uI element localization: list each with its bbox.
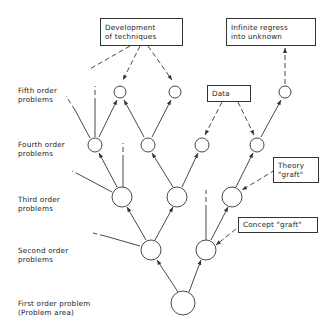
- box-infinite-regress: Infinite regress into unknown: [226, 18, 316, 46]
- box-concept-graft: Concept "graft": [238, 217, 318, 233]
- problem-nodes: [88, 86, 291, 315]
- level-label-first: First order problem (Problem area): [18, 299, 90, 317]
- level-label-second: Second order problems: [18, 246, 68, 264]
- box-data: Data: [207, 85, 251, 102]
- level-label-fourth: Fourth order problems: [18, 140, 65, 158]
- level-label-third: Third order problems: [18, 195, 60, 213]
- problem-hierarchy-diagram: Fifth order problems Fourth order proble…: [0, 0, 335, 333]
- box-theory-graft: Theory "graft": [273, 157, 319, 183]
- level-label-fifth: Fifth order problems: [18, 86, 57, 104]
- box-development-of-techniques: Development of techniques: [100, 18, 183, 46]
